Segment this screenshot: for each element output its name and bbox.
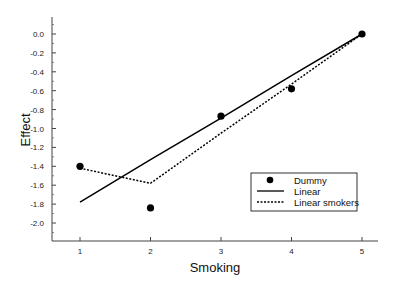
legend: Dummy Linear Linear smokers xyxy=(251,173,359,211)
chart: 0.0-0.2-0.4-0.6-0.8-1.0-1.2-1.4-1.6-1.8-… xyxy=(0,0,408,285)
x-tick-label: 3 xyxy=(219,247,224,256)
y-tick-label: -2.0 xyxy=(30,219,44,228)
y-tick-label: -1.6 xyxy=(30,181,44,190)
y-axis-title: Effect xyxy=(18,113,33,146)
legend-label-linear: Linear xyxy=(294,186,320,197)
x-axis-title: Smoking xyxy=(190,260,241,275)
x-axis: 12345 xyxy=(52,237,378,256)
y-tick-label: -1.8 xyxy=(30,200,44,209)
y-axis: 0.0-0.2-0.4-0.6-0.8-1.0-1.2-1.4-1.6-1.8-… xyxy=(30,17,56,241)
y-tick-label: -1.4 xyxy=(30,162,44,171)
y-tick-label: 0.0 xyxy=(33,30,45,39)
data-point-dummy xyxy=(288,85,295,92)
legend-dummy-marker-icon xyxy=(267,177,274,184)
x-tick-label: 2 xyxy=(148,247,153,256)
legend-label-dummy: Dummy xyxy=(294,175,327,186)
y-tick-label: -0.4 xyxy=(30,68,44,77)
line-linear-smokers xyxy=(80,34,362,183)
x-tick-label: 4 xyxy=(289,247,294,256)
data-point-dummy xyxy=(147,204,154,211)
y-tick-label: -0.2 xyxy=(30,49,44,58)
y-tick-label: -0.6 xyxy=(30,87,44,96)
y-tick-label: -0.8 xyxy=(30,106,44,115)
x-tick-label: 1 xyxy=(78,247,83,256)
x-tick-label: 5 xyxy=(360,247,365,256)
legend-label-linear-smokers: Linear smokers xyxy=(294,197,359,208)
